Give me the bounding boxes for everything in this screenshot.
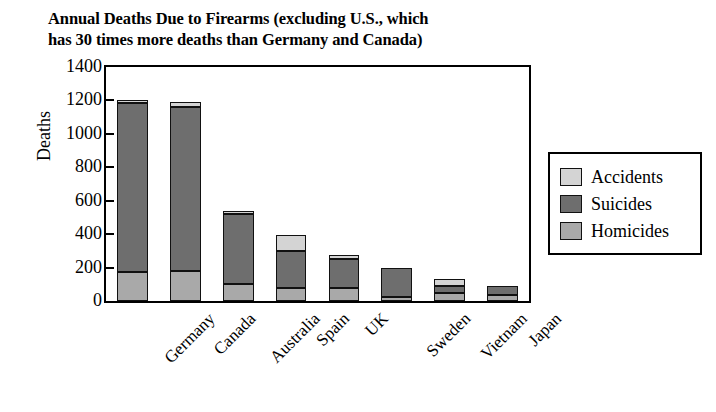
bar-germany[interactable] (117, 100, 148, 301)
legend-label-accidents: Accidents (591, 168, 663, 186)
bar-segment-homicides (223, 284, 254, 301)
bar-segment-suicides (329, 259, 360, 288)
bar-segment-suicides (434, 286, 465, 293)
bar-segment-suicides (381, 268, 412, 297)
x-axis-label-sweden: Sweden (423, 309, 475, 361)
bar-segment-homicides (487, 295, 518, 301)
y-axis-tick-mark (105, 200, 114, 202)
y-axis-tick-label: 1000 (66, 123, 102, 144)
legend-item-suicides[interactable]: Suicides (560, 190, 690, 217)
x-axis-label-spain: Spain (312, 309, 354, 351)
y-axis-tick-mark (105, 166, 114, 168)
chart-title-line-2: has 30 times more deaths than Germany an… (48, 29, 568, 50)
plot-area: 0200400600800100012001400 (106, 67, 529, 301)
chart-title: Annual Deaths Due to Firearms (excluding… (48, 8, 568, 50)
bar-canada[interactable] (170, 102, 201, 301)
firearm-deaths-chart-figure: Annual Deaths Due to Firearms (excluding… (0, 0, 716, 412)
bar-segment-accidents (117, 100, 148, 103)
bar-vietnam[interactable] (434, 279, 465, 301)
bar-segment-suicides (276, 251, 307, 289)
bar-uk[interactable] (329, 255, 360, 301)
bar-segment-accidents (329, 255, 360, 259)
bar-australia[interactable] (223, 212, 254, 301)
legend-swatch-suicides (560, 195, 582, 213)
y-axis-tick-label: 400 (75, 223, 102, 244)
legend-label-homicides: Homicides (591, 222, 669, 240)
legend-item-accidents[interactable]: Accidents (560, 163, 690, 190)
bar-segment-suicides (170, 107, 201, 271)
y-axis-title: Deaths (34, 111, 55, 161)
x-axis-label-japan: Japan (524, 309, 566, 351)
bar-segment-suicides (487, 286, 518, 295)
legend-swatch-accidents (560, 168, 582, 186)
bar-segment-homicides (276, 288, 307, 301)
legend-label-suicides: Suicides (591, 195, 652, 213)
y-axis-tick-label: 600 (75, 190, 102, 211)
bar-segment-homicides (434, 293, 465, 301)
y-axis-tick-label: 1400 (66, 56, 102, 77)
y-axis-tick-label: 0 (93, 290, 102, 311)
bar-sweden[interactable] (381, 268, 412, 301)
legend-swatch-homicides (560, 222, 582, 240)
bar-segment-suicides (117, 103, 148, 272)
x-axis-label-uk: UK (361, 309, 393, 341)
y-axis-tick-mark (105, 267, 114, 269)
y-axis-tick-mark (105, 99, 114, 101)
bar-segment-homicides (381, 297, 412, 301)
bar-segment-homicides (170, 271, 201, 301)
legend-item-homicides[interactable]: Homicides (560, 217, 690, 244)
y-axis-tick-label: 1200 (66, 89, 102, 110)
bar-segment-accidents (276, 235, 307, 251)
bar-segment-accidents (434, 279, 465, 286)
chart-legend: AccidentsSuicidesHomicides (548, 152, 702, 255)
y-axis-tick-mark (105, 233, 114, 235)
y-axis-tick-label: 200 (75, 257, 102, 278)
x-axis-label-germany: Germany (161, 309, 220, 368)
bar-segment-homicides (329, 288, 360, 301)
chart-title-line-1: Annual Deaths Due to Firearms (excluding… (48, 8, 568, 29)
y-axis-tick-mark (105, 133, 114, 135)
x-axis-label-vietnam: Vietnam (477, 309, 532, 364)
bar-segment-homicides (117, 272, 148, 301)
plot-frame: 0200400600800100012001400 (104, 65, 531, 303)
bar-japan[interactable] (487, 286, 518, 301)
y-axis-tick-label: 800 (75, 156, 102, 177)
bar-segment-accidents (170, 102, 201, 107)
bar-segment-suicides (223, 214, 254, 284)
bar-segment-accidents (223, 211, 254, 214)
x-axis-label-canada: Canada (210, 309, 260, 359)
bar-spain[interactable] (276, 235, 307, 301)
